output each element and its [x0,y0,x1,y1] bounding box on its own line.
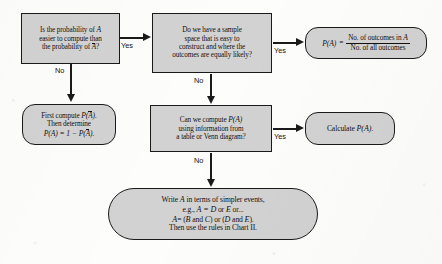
edge-label-q1-yes: Yes [121,41,133,50]
flowchart-canvas: Is the probability of A easier to comput… [0,0,442,264]
classical-lhs: P(A) [322,39,336,48]
node-calculate-text: Calculate P(A). [306,124,394,134]
complement-var-abar-1: A [88,112,92,120]
q1-line1: Is the probability of [40,26,95,34]
edge-label-q3-yes: Yes [274,132,286,141]
edge-q2-yes-arrowhead [296,38,304,46]
node-decompose-text: Write A in terms of simpler events, e.g.… [109,195,317,234]
edge-q1-yes-line [120,37,144,39]
decompose-line2: e.g., A = D or E or... [182,205,243,214]
classical-equals: = [339,39,343,47]
node-calculate-pa: Calculate P(A). [305,112,395,145]
classical-numerator: No. of outcomes in A [346,34,410,44]
node-sample-space-question: Do we have a sample space that is easy t… [152,13,272,73]
q3-line1: Can we compute [180,116,227,124]
edge-label-q1-no: No [55,66,64,75]
node-q2-text: Do we have a sample space that is easy t… [153,26,271,60]
node-classical-text: P(A) = No. of outcomes in A No. of all o… [306,34,426,53]
edge-label-q2-yes: Yes [274,46,286,55]
q3-line3: a table or Venn diagram? [176,133,245,141]
node-complement-text: First compute P(A). Then determine P(A) … [23,111,115,138]
edge-q2-no-arrowhead [207,96,215,104]
node-classical-probability-formula: P(A) = No. of outcomes in A No. of all o… [305,27,427,59]
edge-label-q2-no: No [194,76,203,85]
node-complement-rule: First compute P(A). Then determine P(A) … [22,104,116,145]
q2-line3: construct and where the [179,43,245,51]
edge-label-q3-no: No [194,156,203,165]
decompose-line1: Write A in terms of simpler events, [161,195,264,204]
decompose-line3: A= (B and C) or (D and E). [172,215,253,224]
q2-line2: space that is easy to [185,35,240,43]
calculate-var-pa: P(A) [356,124,371,133]
q1-var-a-complement: A [92,43,96,51]
q1-line3: the probability of [42,43,90,51]
classical-fraction: No. of outcomes in A No. of all outcomes [346,34,410,53]
complement-line2: Then determine [47,120,91,128]
edge-q1-no-line [70,64,72,95]
complement-line1: First compute P(A). [41,112,97,120]
edge-q3-no-line [210,153,212,180]
node-probability-easier-question: Is the probability of A easier to comput… [21,13,120,64]
q3-var-pa: P(A) [228,115,242,124]
edge-q2-no-line [210,74,212,97]
classical-denominator: No. of all outcomes [346,44,410,53]
calculate-label: Calculate [327,124,355,133]
q1-line3-end: ? [96,43,99,51]
q2-line4: outcomes are equally likely? [172,51,252,59]
edge-q1-yes-arrowhead [143,33,151,41]
node-q3-text: Can we compute P(A) using information fr… [151,115,271,141]
edge-q3-no-arrowhead [207,179,215,187]
node-q1-text: Is the probability of A easier to comput… [22,25,119,51]
edge-q3-yes-arrowhead [296,124,304,132]
complement-var-abar-2: A [86,130,90,138]
edge-q3-yes-line [273,128,297,130]
node-decompose-simpler-events: Write A in terms of simpler events, e.g.… [108,188,318,240]
q3-line2: using information from [179,125,244,133]
edge-q2-yes-line [273,42,297,44]
edge-q1-no-arrowhead [67,94,75,102]
decompose-line4: Then use the rules in Chart II. [169,223,257,232]
q2-line1: Do we have a sample [182,26,242,34]
decompose-var-a: A [180,195,185,204]
complement-line3: P(A) = 1 − P(A). [44,130,95,138]
q1-line2: easier to compute than [39,35,102,43]
node-table-venn-question: Can we compute P(A) using information fr… [150,105,272,152]
calculate-label-end: . [371,124,373,133]
classical-numerator-var: A [403,33,408,42]
q1-var-a: A [96,25,101,34]
